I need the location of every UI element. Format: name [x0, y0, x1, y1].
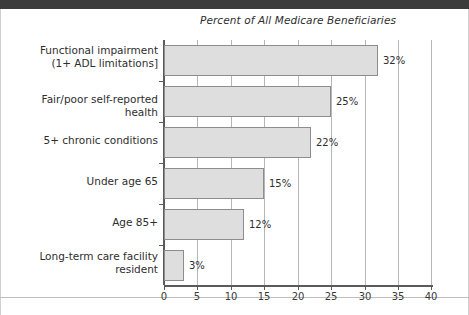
category-label-line1: Age 85+ — [8, 216, 158, 229]
gridline-10 — [231, 40, 232, 285]
gridline-40 — [431, 40, 432, 285]
category-label-fair-poor-health: Fair/poor self-reported health — [8, 93, 158, 119]
category-axis-labels: Functional impairment (1+ ADL limitation… — [8, 40, 158, 285]
x-tick-35 — [398, 285, 399, 290]
x-tick-label-15: 15 — [252, 291, 276, 302]
gridline-15 — [264, 40, 265, 285]
gridline-30 — [365, 40, 366, 285]
x-tick-label-10: 10 — [219, 291, 243, 302]
gridline-20 — [298, 40, 299, 285]
x-tick-label-35: 35 — [386, 291, 410, 302]
x-tick-30 — [365, 285, 366, 290]
x-tick-10 — [231, 285, 232, 290]
y-tick-0 — [159, 81, 164, 82]
x-tick-25 — [331, 285, 332, 290]
bar-functional-impairment[interactable] — [164, 45, 378, 76]
category-label-line2: resident — [8, 263, 158, 276]
gridline-25 — [331, 40, 332, 285]
bar-value-fair-poor-health: 25% — [336, 96, 358, 107]
x-tick-15 — [264, 285, 265, 290]
category-label-under-age-65: Under age 65 — [8, 175, 158, 188]
category-label-line1: Long-term care facility — [8, 250, 158, 263]
bar-value-under-age-65: 15% — [269, 178, 291, 189]
bar-value-age-85-plus: 12% — [249, 219, 271, 230]
category-label-line2: (1+ ADL limitations] — [8, 57, 158, 70]
bar-age-85-plus[interactable] — [164, 209, 244, 240]
x-tick-label-25: 25 — [319, 291, 343, 302]
y-tick-2 — [159, 163, 164, 164]
category-label-line1: Fair/poor self-reported health — [8, 93, 158, 119]
category-label-line1: 5+ chronic conditions — [8, 134, 158, 147]
x-tick-20 — [298, 285, 299, 290]
x-tick-label-0: 0 — [152, 291, 176, 302]
category-label-line1: Under age 65 — [8, 175, 158, 188]
category-label-age-85-plus: Age 85+ — [8, 216, 158, 229]
category-label-chronic-conditions: 5+ chronic conditions — [8, 134, 158, 147]
y-tick-4 — [159, 245, 164, 246]
gridline-5 — [197, 40, 198, 285]
x-tick-label-5: 5 — [185, 291, 209, 302]
y-tick-1 — [159, 122, 164, 123]
x-tick-label-20: 20 — [286, 291, 310, 302]
x-tick-label-30: 30 — [353, 291, 377, 302]
x-tick-0 — [164, 285, 165, 290]
bar-under-age-65[interactable] — [164, 168, 264, 199]
x-tick-5 — [197, 285, 198, 290]
top-decorative-band — [0, 0, 469, 9]
frame-left-border — [0, 9, 1, 315]
x-tick-40 — [431, 285, 432, 290]
plot-area: 32% 25% 22% 15% 12% 3% — [164, 40, 432, 285]
chart-title: Percent of All Medicare Beneficiaries — [164, 14, 432, 26]
chart-page: Percent of All Medicare Beneficiaries Fu… — [0, 0, 469, 315]
bar-long-term-care[interactable] — [164, 250, 184, 281]
x-tick-label-40: 40 — [419, 291, 443, 302]
category-label-line1: Functional impairment — [8, 44, 158, 57]
category-label-long-term-care: Long-term care facility resident — [8, 250, 158, 276]
bar-value-long-term-care: 3% — [189, 260, 205, 271]
y-tick-3 — [159, 204, 164, 205]
bar-chronic-conditions[interactable] — [164, 127, 311, 158]
bar-value-functional-impairment: 32% — [383, 55, 405, 66]
gridline-35 — [398, 40, 399, 285]
bar-value-chronic-conditions: 22% — [316, 137, 338, 148]
category-label-functional-impairment: Functional impairment (1+ ADL limitation… — [8, 44, 158, 70]
bar-fair-poor-health[interactable] — [164, 86, 331, 117]
